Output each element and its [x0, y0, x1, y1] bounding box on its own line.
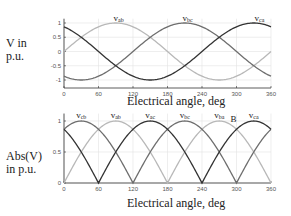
y-tick-label: 0.5: [53, 149, 62, 155]
x-tick-label: 0: [62, 186, 66, 192]
curve-label: vab: [111, 110, 121, 121]
x-tick-label: 120: [128, 186, 139, 192]
y-tick-label: 0: [58, 180, 62, 186]
x-tick-label: 300: [231, 91, 242, 97]
y-tick-label: 1: [58, 20, 62, 26]
x-tick-label: 0: [62, 91, 66, 97]
curve-label: vac: [145, 110, 155, 121]
x-tick-label: 360: [266, 91, 277, 97]
x-tick-label: 60: [95, 186, 102, 192]
x-tick-label: 240: [197, 91, 208, 97]
x-tick-label: 180: [162, 91, 173, 97]
x-tick-label: 300: [231, 186, 242, 192]
y-tick-label: 1: [58, 118, 62, 124]
curve-label: vbc: [180, 110, 191, 121]
x-tick-label: 180: [162, 186, 173, 192]
top-plot: 06012018024030036010.50-0.5-1vabvbcvca: [51, 13, 277, 97]
x-tick-label: 240: [197, 186, 208, 192]
curve-label: vab: [114, 13, 124, 24]
x-tick-label: 60: [95, 91, 102, 97]
y-tick-label: 0.5: [53, 34, 62, 40]
bottom-plot: 06012018024030036010.50vcbvabvacvbcvbavc…: [53, 110, 277, 192]
chart-canvas: 06012018024030036010.50-0.5-1vabvbcvca 0…: [0, 0, 291, 216]
curve-label: vca: [255, 13, 265, 24]
curve-label: vca: [249, 110, 259, 121]
y-tick-label: -1: [56, 77, 62, 83]
curve-label: vbc: [183, 13, 194, 24]
x-tick-label: 360: [266, 186, 277, 192]
curve-label: vcb: [76, 110, 86, 121]
x-tick-label: 120: [128, 91, 139, 97]
y-tick-label: -0.5: [51, 63, 62, 69]
curve-label: vba: [214, 110, 225, 121]
annotation-b: B: [231, 114, 237, 124]
y-tick-label: 0: [58, 49, 62, 55]
